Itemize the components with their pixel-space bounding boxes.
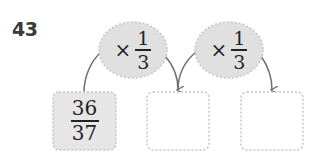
denominator: 3 <box>233 52 245 72</box>
numerator: 1 <box>137 28 149 48</box>
answer-input-1[interactable] <box>147 92 209 150</box>
denominator: 37 <box>72 123 97 144</box>
start-fraction: 36 37 <box>71 98 99 143</box>
start-value: 36 37 <box>53 92 116 150</box>
multiply-symbol: × <box>115 38 132 62</box>
answer-input-2[interactable] <box>241 92 303 150</box>
numerator: 1 <box>233 28 245 48</box>
numerator: 36 <box>72 98 97 119</box>
operation-1: × 1 3 <box>99 22 167 78</box>
connector-line <box>178 52 196 90</box>
denominator: 3 <box>137 52 149 72</box>
operation-fraction: 1 3 <box>231 28 247 71</box>
operation-2: × 1 3 <box>195 22 263 78</box>
multiply-symbol: × <box>211 38 228 62</box>
operation-fraction: 1 3 <box>135 28 151 71</box>
